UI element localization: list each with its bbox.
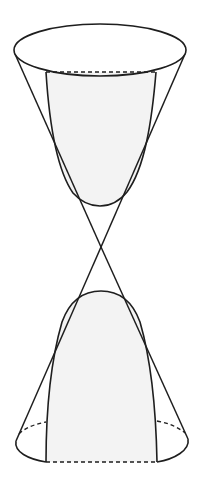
lower-hyperbola-section: [46, 291, 157, 462]
lower-base-ellipse-front-right: [157, 439, 188, 462]
double-cone-diagram: Double cone cut by a plane parallel to t…: [0, 0, 200, 478]
lower-base-ellipse-front-left: [16, 441, 46, 462]
upper-base-ellipse: [14, 24, 186, 76]
double-cone-figure: [0, 0, 200, 478]
upper-hyperbola-section: [46, 72, 156, 206]
